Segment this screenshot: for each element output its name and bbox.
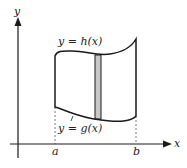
- lower-curve-label: y = g(x): [57, 122, 102, 135]
- y-axis-arrow-icon: [15, 17, 22, 26]
- g-label-pointer: [71, 116, 73, 121]
- x-axis-label: x: [174, 137, 181, 150]
- bound-b-label: b: [133, 145, 140, 158]
- y-axis-label: y: [13, 5, 21, 18]
- x-axis-arrow-icon: [163, 141, 172, 148]
- upper-curve-label: y = h(x): [57, 35, 102, 48]
- shaded-strip: [95, 55, 101, 119]
- bound-a-label: a: [52, 145, 59, 158]
- region-between-curves-diagram: y x y = h(x) y = g(x) a b: [0, 0, 187, 168]
